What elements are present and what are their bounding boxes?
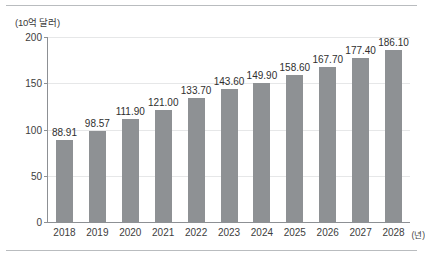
x-axis-tick-label: 2018 xyxy=(53,227,75,238)
bar[interactable] xyxy=(89,131,106,222)
bar[interactable] xyxy=(385,50,402,222)
x-axis-tick-label: 2026 xyxy=(317,227,339,238)
bar[interactable] xyxy=(286,75,303,222)
bar-value-label: 88.91 xyxy=(52,127,77,138)
x-axis-tick-label: 2019 xyxy=(86,227,108,238)
x-axis-tick-label: 2023 xyxy=(218,227,240,238)
x-axis-tick-label: 2021 xyxy=(152,227,174,238)
bar-value-label: 177.40 xyxy=(345,45,376,56)
bar[interactable] xyxy=(56,140,73,222)
bar[interactable] xyxy=(352,58,369,222)
bar-value-label: 111.90 xyxy=(116,106,145,117)
y-axis-tick-mark xyxy=(44,222,48,223)
y-axis-tick-mark xyxy=(44,37,48,38)
x-axis-tick-label: 2028 xyxy=(382,227,404,238)
x-axis-tick-label: 2025 xyxy=(284,227,306,238)
y-axis-tick-label: 200 xyxy=(25,32,42,43)
y-axis-tick-mark xyxy=(44,83,48,84)
bar[interactable] xyxy=(122,119,139,223)
bar-value-label: 186.10 xyxy=(378,37,409,48)
bar[interactable] xyxy=(253,83,270,222)
top-divider-rule xyxy=(6,5,417,6)
x-axis-tick-label: 2027 xyxy=(350,227,372,238)
x-axis-tick-label: 2024 xyxy=(251,227,273,238)
y-axis-tick-label: 50 xyxy=(31,170,42,181)
x-axis-unit-label: (년) xyxy=(412,228,425,240)
bar-value-label: 143.60 xyxy=(214,76,245,87)
bar[interactable] xyxy=(319,67,336,222)
bottom-divider-rule xyxy=(6,250,417,251)
y-axis-unit-label: (10억 달러) xyxy=(15,15,60,29)
plot-area: 050100150200 88.9198.57111.90121.00133.7… xyxy=(48,37,410,222)
bar-value-label: 158.60 xyxy=(280,62,311,73)
bar-value-label: 121.00 xyxy=(148,97,179,108)
bar[interactable] xyxy=(155,110,172,222)
y-axis-tick-mark xyxy=(44,130,48,131)
bar-value-label: 133.70 xyxy=(181,85,212,96)
bar[interactable] xyxy=(188,98,205,222)
y-axis-tick-label: 0 xyxy=(36,217,42,228)
y-axis-tick-label: 150 xyxy=(25,78,42,89)
bar-value-label: 98.57 xyxy=(85,118,110,129)
x-axis-tick-label: 2022 xyxy=(185,227,207,238)
x-axis-line xyxy=(47,222,410,223)
x-axis-tick-label: 2020 xyxy=(119,227,141,238)
bar[interactable] xyxy=(221,89,238,222)
bar-value-label: 167.70 xyxy=(312,54,343,65)
bar-value-label: 149.90 xyxy=(247,70,278,81)
gridline xyxy=(48,37,410,38)
y-axis-tick-mark xyxy=(44,176,48,177)
y-axis-tick-label: 100 xyxy=(25,124,42,135)
